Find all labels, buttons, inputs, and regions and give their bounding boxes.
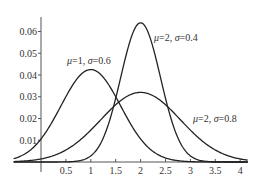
x-tick-label: 3.5	[209, 165, 222, 176]
curve-series-1	[14, 23, 248, 162]
x-tick-label: 1	[88, 165, 93, 176]
y-tick-label: 0.05	[20, 48, 38, 59]
y-tick-label: 0.01	[20, 135, 38, 146]
x-tick-label: 2	[138, 165, 143, 176]
label-mu1-sigma06: μ=1, σ=0.6	[66, 55, 111, 66]
x-tick-label: 2.5	[159, 165, 172, 176]
y-tick-label: 0.03	[20, 91, 38, 102]
y-tick-label: 0.04	[20, 70, 38, 81]
x-tick-label: 0.5	[60, 165, 73, 176]
label-mu2-sigma08: μ=2, σ=0.8	[192, 113, 237, 124]
curves	[14, 23, 248, 162]
x-tick-label: 4	[238, 165, 243, 176]
x-tick-label: 1.5	[109, 165, 122, 176]
y-tick-label: 0.02	[20, 113, 38, 124]
x-tick-label: 3	[188, 165, 193, 176]
y-tick-label: 0.06	[20, 26, 38, 37]
label-mu2-sigma04: μ=2, σ=0.4	[153, 32, 198, 43]
y-ticks: 0.010.020.030.040.050.06	[20, 26, 42, 146]
normal-distribution-chart: 0.511.522.533.54 0.010.020.030.040.050.0…	[0, 0, 258, 185]
